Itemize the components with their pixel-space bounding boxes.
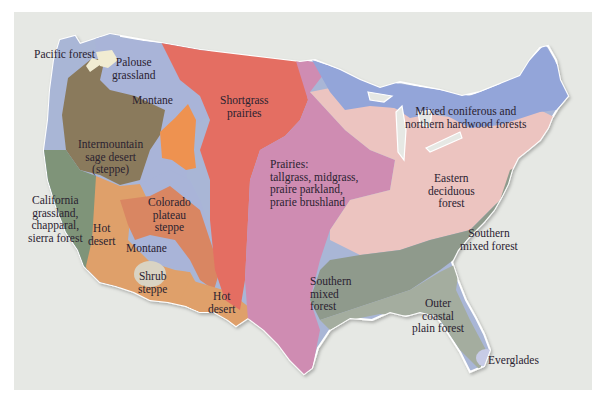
label-pacific-forest: Pacific forest	[34, 48, 95, 61]
label-eastern-deciduous: Eastern deciduous forest	[428, 172, 475, 210]
label-everglades: Everglades	[488, 354, 539, 367]
label-outer-coastal: Outer coastal plain forest	[412, 297, 464, 335]
label-palouse-grassland: Palouse grassland	[112, 56, 155, 81]
label-shrub-steppe: Shrub steppe	[138, 270, 167, 295]
label-hot-desert-texas: Hot desert	[208, 290, 235, 315]
label-southern-mixed-west: Southern mixed forest	[310, 275, 352, 313]
label-prairies: Prairies: tallgrass, midgrass, praire pa…	[270, 158, 358, 208]
label-shortgrass: Shortgrass prairies	[220, 94, 269, 119]
label-california: California grassland, chapparal, sierra …	[28, 194, 83, 244]
label-intermountain: Intermountain sage desert (steppe)	[78, 138, 143, 176]
label-montane-north: Montane	[132, 94, 173, 107]
label-southern-mixed-east: Southern mixed forest	[460, 227, 518, 252]
label-mixed-coniferous: Mixed coniferous and northern hardwood f…	[405, 105, 526, 130]
label-hot-desert-west: Hot desert	[88, 222, 115, 247]
label-colorado-plateau: Colorado plateau steppe	[148, 196, 191, 234]
label-montane-south: Montane	[126, 242, 167, 255]
